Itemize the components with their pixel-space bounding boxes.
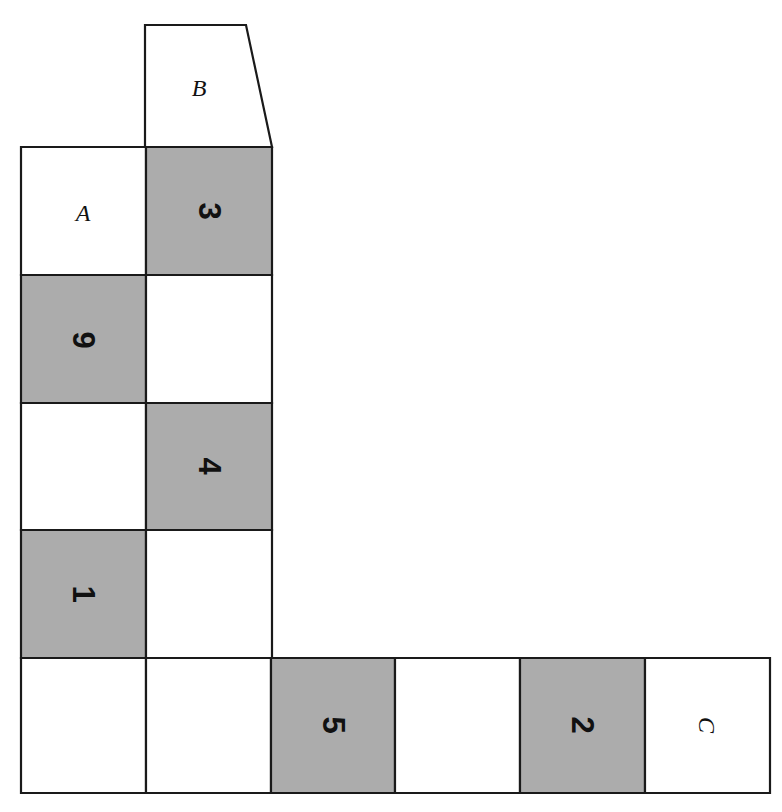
net-cell (146, 530, 272, 658)
net-cell (146, 275, 272, 403)
net-cell (21, 275, 146, 403)
net-cell (21, 658, 146, 793)
net-cell (271, 658, 395, 793)
net-cell (146, 147, 272, 275)
net-diagram (0, 0, 782, 812)
net-cell (146, 658, 271, 793)
figure-root: BA394152C (0, 0, 782, 812)
net-cell (146, 403, 272, 530)
net-cell (395, 658, 520, 793)
net-cell (21, 403, 146, 530)
net-cell (21, 147, 146, 275)
net-cell (21, 530, 146, 658)
net-cell (145, 25, 272, 147)
net-cell (645, 658, 770, 793)
net-cell (520, 658, 645, 793)
